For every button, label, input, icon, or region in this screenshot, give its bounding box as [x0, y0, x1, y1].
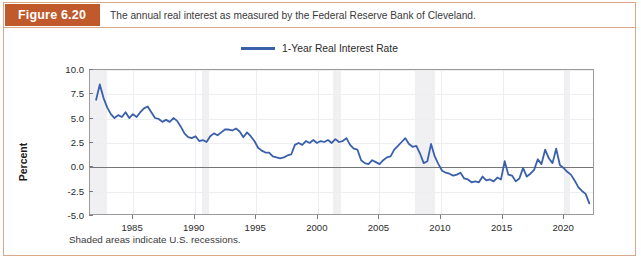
figure-caption-text: The annual real interest as measured by …	[110, 10, 476, 21]
y-axis-title: Percent	[17, 143, 29, 182]
figure-footnote: Shaded areas indicate U.S. recessions.	[69, 234, 241, 245]
x-tick-mark-3	[317, 215, 318, 219]
chart-area: Percent 10.07.55.02.50.0-2.5-5.0 1985199…	[4, 58, 635, 233]
figure-caption-bar: The annual real interest as measured by …	[99, 4, 634, 26]
y-tick-mark-0	[89, 69, 93, 70]
x-tick-label-7: 2020	[553, 222, 574, 233]
plot-frame	[89, 69, 594, 215]
chart-legend: 1-Year Real Interest Rate	[4, 43, 635, 54]
figure-number-tag: Figure 6.20	[5, 4, 99, 26]
x-tick-mark-0	[132, 215, 133, 219]
y-axis-tick-labels: 10.07.55.02.50.0-2.5-5.0	[40, 69, 84, 215]
x-tick-label-0: 1985	[121, 222, 142, 233]
x-tick-label-6: 2015	[491, 222, 512, 233]
y-tick-label-4: 0.0	[71, 161, 84, 172]
header-divider	[4, 27, 635, 28]
figure-header: Figure 6.20 The annual real interest as …	[4, 3, 635, 27]
y-tick-label-3: 2.5	[71, 137, 84, 148]
x-tick-mark-2	[255, 215, 256, 219]
x-tick-mark-1	[194, 215, 195, 219]
y-tick-mark-2	[89, 118, 93, 119]
x-tick-mark-6	[502, 215, 503, 219]
x-tick-label-3: 2000	[306, 222, 327, 233]
x-tick-label-2: 1995	[245, 222, 266, 233]
y-tick-label-0: 10.0	[65, 64, 84, 75]
y-tick-mark-5	[89, 191, 93, 192]
y-tick-mark-3	[89, 142, 93, 143]
figure-container: Figure 6.20 The annual real interest as …	[3, 2, 636, 256]
x-tick-label-1: 1990	[183, 222, 204, 233]
y-tick-mark-1	[89, 93, 93, 94]
series-line-1-year-real-interest-rate	[90, 70, 593, 214]
series-path	[96, 84, 589, 203]
y-tick-label-2: 5.0	[71, 112, 84, 123]
plot-inner	[90, 70, 593, 214]
x-tick-mark-4	[378, 215, 379, 219]
y-tick-mark-6	[89, 215, 93, 216]
y-tick-label-5: -2.5	[67, 185, 84, 196]
x-tick-mark-7	[563, 215, 564, 219]
x-axis-tick-labels: 19851990199520002005201020152020	[89, 215, 594, 235]
x-tick-mark-5	[440, 215, 441, 219]
x-tick-label-4: 2005	[368, 222, 389, 233]
y-tick-mark-4	[89, 166, 93, 167]
x-tick-label-5: 2010	[429, 222, 450, 233]
legend-label-series-0: 1-Year Real Interest Rate	[282, 43, 398, 54]
legend-swatch-series-0	[241, 47, 275, 50]
y-tick-label-1: 7.5	[71, 88, 84, 99]
y-tick-label-6: -5.0	[67, 210, 84, 221]
